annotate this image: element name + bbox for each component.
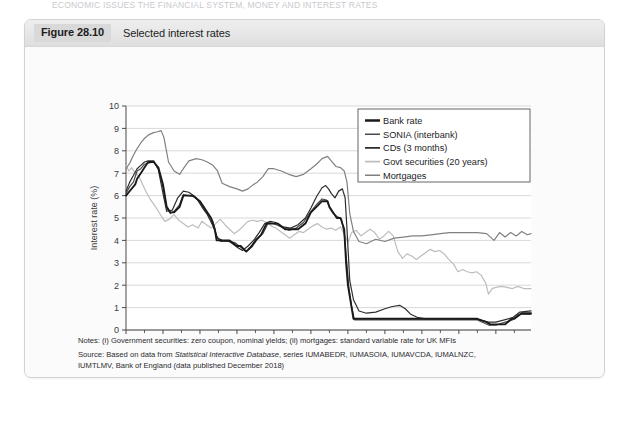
y-axis-tick-label: 0 bbox=[114, 325, 119, 335]
interest-rates-line-chart: 012345678910Interest rate (%)19971999200… bbox=[25, 47, 605, 337]
y-axis-tick-label: 5 bbox=[114, 213, 119, 223]
page-root: ECONOMIC ISSUES THE FINANCIAL SYSTEM, MO… bbox=[0, 0, 629, 421]
figure-number-badge: Figure 28.10 bbox=[34, 24, 111, 42]
y-axis-tick-label: 1 bbox=[114, 303, 119, 313]
figure-notes: Notes: (i) Government securities: zero c… bbox=[78, 335, 578, 372]
notes-line-2: Source: Based on data from Statistical I… bbox=[78, 349, 578, 361]
figure-caption: Selected interest rates bbox=[123, 26, 230, 41]
y-axis-title: Interest rate (%) bbox=[89, 186, 99, 251]
y-axis-tick-label: 10 bbox=[109, 101, 119, 111]
figure-body: 012345678910Interest rate (%)19971999200… bbox=[25, 47, 605, 378]
legend-label: SONIA (interbank) bbox=[383, 130, 458, 140]
legend-label: Bank rate bbox=[383, 116, 422, 126]
source-prefix: Source: Based on data from bbox=[78, 350, 175, 359]
notes-line-3: IUMTLMV, Bank of England (data published… bbox=[78, 360, 578, 372]
source-database-name: Statistical Interactive Database bbox=[175, 350, 279, 359]
y-axis-tick-label: 4 bbox=[114, 236, 119, 246]
y-axis-tick-label: 6 bbox=[114, 191, 119, 201]
figure-card: Figure 28.10 Selected interest rates 012… bbox=[24, 19, 605, 378]
running-header: ECONOMIC ISSUES THE FINANCIAL SYSTEM, MO… bbox=[52, 0, 572, 11]
y-axis-tick-label: 2 bbox=[114, 281, 119, 291]
legend-label: CDs (3 months) bbox=[383, 143, 447, 153]
source-series-list: , series IUMABEDR, IUMASOIA, IUMAVCDA, I… bbox=[279, 350, 476, 359]
chart-area: 012345678910Interest rate (%)19971999200… bbox=[25, 47, 605, 337]
legend-label: Mortgages bbox=[383, 171, 427, 181]
notes-line-1: Notes: (i) Government securities: zero c… bbox=[78, 335, 578, 347]
y-axis-tick-label: 8 bbox=[114, 146, 119, 156]
y-axis-tick-label: 3 bbox=[114, 258, 119, 268]
legend-label: Govt securities (20 years) bbox=[383, 157, 488, 167]
figure-titlebar: Figure 28.10 Selected interest rates bbox=[25, 20, 605, 47]
y-axis-tick-label: 9 bbox=[114, 124, 119, 134]
y-axis-tick-label: 7 bbox=[114, 169, 119, 179]
